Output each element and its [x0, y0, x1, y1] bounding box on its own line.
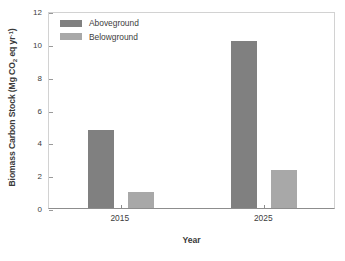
chart-figure: Biomass Carbon Stock (Mg CO2 eq yr-1) 02…	[0, 0, 345, 261]
y-axis-tick-label: 0	[12, 205, 42, 214]
legend-swatch-belowground	[60, 33, 82, 40]
legend-swatch-aboveground	[60, 20, 82, 27]
y-axis-tick-mark	[49, 177, 53, 178]
x-axis-title: Year	[48, 235, 335, 245]
plot-area: AbovegroundBelowground	[48, 12, 335, 209]
y-axis-title-suffix: )	[7, 28, 17, 31]
legend-item-belowground: Belowground	[60, 32, 139, 42]
bar-belowground-2025	[271, 170, 297, 208]
y-axis-tick-mark	[49, 144, 53, 145]
x-axis-tick-label: 2015	[90, 213, 150, 223]
x-axis-tick-mark	[121, 205, 122, 209]
bar-aboveground-2025	[231, 41, 257, 208]
y-axis-title-subscript: 2	[10, 59, 17, 62]
y-axis-title-superscript: -1	[7, 31, 14, 36]
y-axis-tick-label: 6	[12, 106, 42, 115]
y-axis-tick-mark	[49, 13, 53, 14]
y-axis-tick-label: 12	[12, 8, 42, 17]
y-axis-tick-label: 8	[12, 73, 42, 82]
y-axis-tick-label: 10	[12, 40, 42, 49]
x-axis-tick-mark	[264, 205, 265, 209]
y-axis-tick-mark	[49, 79, 53, 80]
y-axis-tick-label: 4	[12, 139, 42, 148]
legend-item-aboveground: Aboveground	[60, 18, 139, 28]
bar-belowground-2015	[128, 192, 154, 208]
y-axis-tick-mark	[49, 210, 53, 211]
legend-label: Aboveground	[89, 18, 139, 28]
bar-aboveground-2015	[88, 130, 114, 208]
y-axis-tick-mark	[49, 46, 53, 47]
legend: AbovegroundBelowground	[60, 18, 139, 42]
x-axis-tick-label: 2025	[233, 213, 293, 223]
y-axis-tick-label: 2	[12, 172, 42, 181]
y-axis-tick-mark	[49, 112, 53, 113]
legend-label: Belowground	[89, 32, 138, 42]
